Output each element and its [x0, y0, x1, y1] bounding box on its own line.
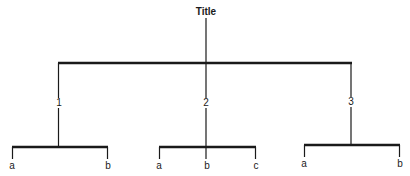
leaf-label-2b: b: [203, 161, 211, 171]
branch-label-3: 3: [347, 97, 355, 107]
leaf-label-2a: a: [155, 161, 163, 171]
leaf-label-1b: b: [104, 161, 112, 171]
tree-lines: [0, 0, 410, 176]
diagram-title: Title: [196, 6, 216, 17]
branch-label-1: 1: [55, 98, 63, 108]
leaf-label-3a: a: [300, 159, 308, 169]
leaf-label-3b: b: [396, 159, 404, 169]
leaf-label-1a: a: [8, 161, 16, 171]
leaf-label-2c: c: [253, 161, 260, 171]
branch-label-2: 2: [202, 98, 210, 108]
